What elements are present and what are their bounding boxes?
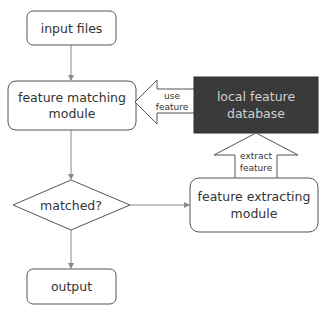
node-input-files: input files bbox=[27, 11, 116, 45]
use-feature-label-line1: use bbox=[164, 91, 180, 101]
feature-extracting-label-line1: feature extracting bbox=[198, 189, 311, 204]
node-output: output bbox=[27, 269, 116, 304]
node-feature-matching-module: feature matching module bbox=[8, 81, 136, 130]
local-db-label-line2: database bbox=[227, 106, 285, 121]
node-matched-decision: matched? bbox=[13, 180, 130, 230]
flowchart-canvas: input files feature matching module use … bbox=[0, 0, 325, 315]
feature-matching-label-line2: module bbox=[49, 106, 96, 121]
local-db-label-line1: local feature bbox=[217, 89, 296, 104]
feature-matching-label-line1: feature matching bbox=[18, 90, 126, 105]
block-arrow-extract-feature: extract feature bbox=[214, 133, 298, 178]
block-arrow-use-feature: use feature bbox=[135, 80, 194, 124]
extract-feature-label-line1: extract bbox=[240, 151, 272, 161]
feature-extracting-label-line2: module bbox=[231, 206, 278, 221]
node-feature-extracting-module: feature extracting module bbox=[190, 178, 318, 232]
use-feature-label-line2: feature bbox=[156, 102, 189, 112]
extract-feature-label-line2: feature bbox=[240, 163, 273, 173]
input-files-label: input files bbox=[41, 21, 103, 36]
matched-label: matched? bbox=[40, 198, 102, 213]
node-local-feature-database: local feature database bbox=[194, 77, 318, 133]
output-label: output bbox=[51, 279, 92, 294]
